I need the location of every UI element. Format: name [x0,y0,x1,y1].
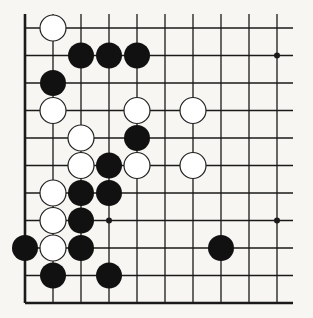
black-stone [40,70,66,96]
white-stone [40,235,66,261]
black-stone [68,180,94,206]
black-stone [68,235,94,261]
go-board [0,0,313,318]
black-stone [96,263,122,289]
white-stone [68,153,94,179]
black-stone [68,208,94,234]
white-stone [124,98,150,124]
hoshi-point [106,218,112,224]
black-stone [96,180,122,206]
white-stone [40,208,66,234]
white-stone [40,180,66,206]
white-stone [180,153,206,179]
black-stone [124,125,150,151]
white-stone [68,125,94,151]
white-stone [40,15,66,41]
black-stone [208,235,234,261]
board-grid [0,0,313,318]
black-stone [124,43,150,69]
black-stone [68,43,94,69]
hoshi-point [274,53,280,59]
black-stone [96,153,122,179]
white-stone [124,153,150,179]
black-stone [40,263,66,289]
hoshi-point [274,218,280,224]
white-stone [40,98,66,124]
black-stone [12,235,38,261]
black-stone [96,43,122,69]
white-stone [180,98,206,124]
